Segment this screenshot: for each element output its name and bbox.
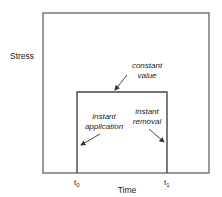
arrow-application <box>81 134 100 145</box>
plot-frame <box>43 13 209 173</box>
annotation-removal-line2: removal <box>133 117 162 126</box>
arrow-removal <box>149 129 164 142</box>
tick-t0: t0 <box>74 178 80 188</box>
annotation-removal-line1: instant <box>135 107 159 116</box>
stress-time-diagram: Stress constant value instant applicatio… <box>0 0 222 197</box>
annotation-application-line1: instant <box>92 112 116 121</box>
y-axis-label: Stress <box>10 51 34 61</box>
annotation-application-line2: application <box>85 122 124 131</box>
annotation-constant-line1: constant <box>132 61 163 70</box>
tick-t1: t1 <box>164 178 170 188</box>
x-axis-label: Time <box>118 185 137 195</box>
annotation-constant-line2: value <box>137 71 157 80</box>
arrow-constant <box>115 75 127 90</box>
